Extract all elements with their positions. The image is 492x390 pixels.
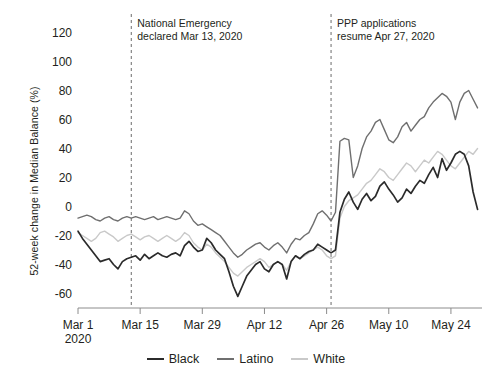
x-axis-tick-label: Mar 12020 — [63, 318, 94, 346]
x-axis-tick-label: May 10 — [369, 318, 408, 332]
y-axis-tick-label: 80 — [30, 84, 72, 98]
legend-item-black[interactable]: Black — [147, 352, 200, 366]
legend-label: Latino — [239, 352, 273, 366]
chart-legend: BlackLatinoWhite — [0, 352, 492, 366]
x-axis-tick-label: Mar 29 — [184, 318, 221, 332]
x-axis-tick-label: May 24 — [431, 318, 470, 332]
y-axis-tick-label: 40 — [30, 142, 72, 156]
x-axis-tick-label-line: May 24 — [431, 318, 470, 332]
legend-item-white[interactable]: White — [291, 352, 345, 366]
x-axis-tick-label: Mar 15 — [121, 318, 158, 332]
annotation-text-ppp-applications: PPP applications resume Apr 27, 2020 — [337, 17, 434, 43]
legend-swatch-black-icon — [147, 358, 164, 360]
legend-swatch-white-icon — [291, 358, 308, 360]
x-axis-tick-label-line: Mar 29 — [184, 318, 221, 332]
y-axis-tick-label: 20 — [30, 171, 72, 185]
x-axis-tick-label-line: May 10 — [369, 318, 408, 332]
x-axis-tick-label: Apr 26 — [309, 318, 344, 332]
series-line-black — [78, 151, 478, 296]
y-axis-tick-label: -60 — [30, 287, 72, 301]
y-axis-tick-label: -40 — [30, 258, 72, 272]
legend-swatch-latino-icon — [217, 358, 234, 360]
y-axis-tick-label: 100 — [30, 55, 72, 69]
legend-label: White — [313, 352, 345, 366]
y-axis-tick-label: 120 — [30, 26, 72, 40]
x-axis-tick-label: Apr 12 — [247, 318, 282, 332]
y-axis-tick-label: 60 — [30, 113, 72, 127]
y-axis-tick-label: -20 — [30, 229, 72, 243]
legend-item-latino[interactable]: Latino — [217, 352, 273, 366]
x-axis-tick-label-line: Apr 12 — [247, 318, 282, 332]
x-axis-tick-label-line: Mar 15 — [121, 318, 158, 332]
x-axis-tick-label-line: Mar 1 — [63, 318, 94, 332]
legend-label: Black — [169, 352, 200, 366]
y-axis-tick-label: 0 — [30, 200, 72, 214]
series-line-latino — [78, 91, 478, 258]
x-axis-tick-label-line: Apr 26 — [309, 318, 344, 332]
annotation-text-national-emergency: National Emergency declared Mar 13, 2020 — [137, 17, 242, 43]
x-axis-tick-label-line: 2020 — [63, 332, 94, 346]
